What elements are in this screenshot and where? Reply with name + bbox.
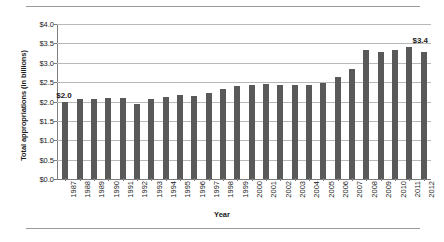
y-axis-title: Total appropriations (in billions) [19,26,28,186]
y-tick-mark [54,160,57,161]
y-tick-label: $3.5 [39,39,54,48]
bar-2002 [277,85,283,179]
x-tick-label-1988: 1988 [83,181,92,211]
y-tick-mark [54,24,57,25]
x-tick-mark [352,178,353,181]
bar-1999 [234,86,240,179]
gridline-00: $0.0 [57,179,431,180]
x-tick-label-2005: 2005 [327,181,336,211]
x-axis-tick-labels: 1987198819891990199119921993199419951996… [58,181,431,209]
x-tick-mark [366,178,367,181]
bar-2007 [349,69,355,179]
bar-2005 [320,83,326,179]
bars-group [58,24,431,179]
y-tick-mark [54,140,57,141]
x-tick-label-2007: 2007 [355,181,364,211]
bar-2006 [335,77,341,179]
x-tick-label-1997: 1997 [212,181,221,211]
bar-1989 [91,99,97,179]
x-tick-mark [424,178,425,181]
x-tick-label-1987: 1987 [69,181,78,211]
x-tick-mark [223,178,224,181]
y-tick-mark [54,82,57,83]
x-tick-mark [137,178,138,181]
bar-1987 [62,102,68,180]
bar-2010 [392,50,398,179]
y-tick-mark [54,102,57,103]
x-tick-label-2002: 2002 [284,181,293,211]
bar-1998 [220,89,226,179]
x-tick-label-2012: 2012 [427,181,436,211]
x-tick-label-2010: 2010 [399,181,408,211]
bar-1990 [105,98,111,179]
x-tick-mark [94,178,95,181]
top-divider-rule [26,6,420,7]
bar-1991 [120,98,126,179]
x-tick-label-1989: 1989 [97,181,106,211]
y-tick-label: $2.0 [39,97,54,106]
x-tick-mark [280,178,281,181]
x-tick-mark [80,178,81,181]
bar-1996 [191,96,197,179]
y-tick-label: $1.5 [39,116,54,125]
chart-figure: Total appropriations (in billions) $0.0$… [0,0,444,242]
y-tick-mark [54,121,57,122]
x-tick-mark [151,178,152,181]
x-tick-label-2003: 2003 [298,181,307,211]
x-tick-mark [323,178,324,181]
x-tick-label-1992: 1992 [140,181,149,211]
bar-2001 [263,84,269,179]
x-tick-label-1991: 1991 [126,181,135,211]
y-tick-label: $3.0 [39,58,54,67]
x-tick-label-1998: 1998 [226,181,235,211]
x-tick-mark [209,178,210,181]
x-tick-mark [194,178,195,181]
x-tick-label-2009: 2009 [384,181,393,211]
x-tick-mark [123,178,124,181]
bar-2000 [249,85,255,179]
bottom-divider-rule [26,228,420,229]
bar-1997 [206,93,212,179]
bar-2004 [306,85,312,179]
x-tick-mark [180,178,181,181]
x-tick-label-2000: 2000 [255,181,264,211]
y-tick-label: $0.0 [39,175,54,184]
x-tick-mark [166,178,167,181]
x-tick-label-2008: 2008 [370,181,379,211]
y-tick-label: $2.5 [39,78,54,87]
x-tick-mark [252,178,253,181]
y-tick-mark [54,63,57,64]
x-tick-mark [338,178,339,181]
first-value-label: $2.0 [56,91,72,100]
x-tick-mark [381,178,382,181]
y-tick-label: $0.5 [39,155,54,164]
bar-1988 [77,99,83,179]
x-tick-label-1994: 1994 [169,181,178,211]
bar-1993 [148,99,154,179]
bar-2012 [421,52,427,179]
x-tick-label-2011: 2011 [413,181,422,211]
plot-area: $0.0$0.5$1.0$1.5$2.0$2.5$3.0$3.5$4.0 $2.… [57,24,431,179]
bar-2008 [363,50,369,179]
bar-2009 [378,52,384,179]
x-tick-label-1999: 1999 [241,181,250,211]
x-tick-mark [266,178,267,181]
x-tick-mark [65,178,66,181]
x-tick-mark [108,178,109,181]
bar-1995 [177,95,183,179]
x-tick-label-1996: 1996 [198,181,207,211]
y-tick-label: $4.0 [39,20,54,29]
last-value-label: $3.4 [412,36,428,45]
y-tick-mark [54,43,57,44]
x-tick-label-1995: 1995 [183,181,192,211]
x-tick-label-1990: 1990 [112,181,121,211]
y-tick-mark [54,179,57,180]
bar-1994 [163,97,169,179]
x-tick-mark [237,178,238,181]
x-tick-label-2004: 2004 [312,181,321,211]
x-tick-mark [309,178,310,181]
bar-2011 [406,47,412,179]
x-tick-mark [295,178,296,181]
x-tick-label-2001: 2001 [269,181,278,211]
x-tick-mark [395,178,396,181]
